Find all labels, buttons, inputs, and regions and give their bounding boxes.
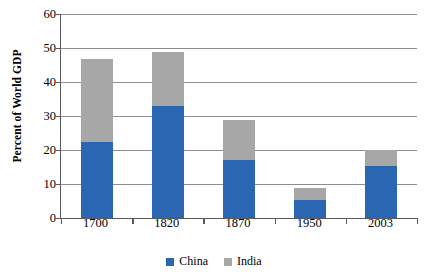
x-tick-label: 2003 — [345, 216, 415, 231]
bars-layer — [61, 14, 417, 218]
x-tick-label: 1870 — [203, 216, 273, 231]
x-tick-label: 1700 — [61, 216, 131, 231]
bar-segment-india[interactable] — [152, 52, 184, 106]
y-tick-label: 10 — [16, 177, 56, 192]
bar-segment-china[interactable] — [365, 166, 397, 218]
plot-area — [60, 14, 417, 219]
bar-segment-india[interactable] — [365, 150, 397, 166]
legend-swatch-china — [166, 258, 174, 266]
legend-label: India — [237, 254, 262, 269]
bar-segment-india[interactable] — [294, 188, 326, 200]
legend-item-china[interactable]: China — [166, 254, 208, 269]
chart-legend: ChinaIndia — [0, 254, 428, 269]
legend-label: China — [179, 254, 208, 269]
y-tick-label: 40 — [16, 75, 56, 90]
y-tick-label: 20 — [16, 143, 56, 158]
y-tick-label: 50 — [16, 41, 56, 56]
bar-segment-china[interactable] — [81, 142, 113, 219]
y-tick-label: 30 — [16, 109, 56, 124]
bar-segment-china[interactable] — [223, 160, 255, 218]
x-tick-mark — [417, 218, 418, 224]
x-tick-label: 1820 — [132, 216, 202, 231]
bar-group[interactable] — [81, 14, 113, 218]
chart-container: Percent of World GDP 0102030405060 17001… — [0, 0, 428, 279]
bar-segment-india[interactable] — [223, 120, 255, 160]
legend-item-india[interactable]: India — [224, 254, 262, 269]
y-tick-label: 0 — [16, 211, 56, 226]
x-tick-label: 1950 — [274, 216, 344, 231]
legend-swatch-india — [224, 258, 232, 266]
bar-group[interactable] — [152, 14, 184, 218]
bar-group[interactable] — [223, 14, 255, 218]
y-tick-label: 60 — [16, 7, 56, 22]
bar-segment-india[interactable] — [81, 59, 113, 141]
bar-group[interactable] — [365, 14, 397, 218]
bar-group[interactable] — [294, 14, 326, 218]
bar-segment-china[interactable] — [152, 106, 184, 218]
